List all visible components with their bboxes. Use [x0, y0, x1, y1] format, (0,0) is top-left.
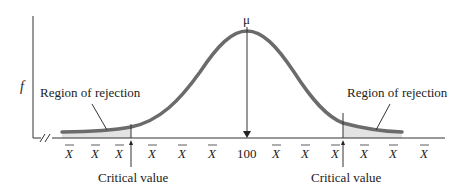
- x-tick: X: [300, 145, 310, 161]
- x-tick: X: [114, 145, 124, 161]
- left-region-label: Region of rejection: [40, 85, 141, 100]
- x-tick: X: [388, 145, 398, 161]
- svg-text:X: X: [300, 146, 310, 161]
- left-region-pointer: [92, 104, 107, 130]
- y-axis-label: f: [20, 79, 26, 94]
- x-tick: X: [64, 145, 74, 161]
- mean-arrow-icon: [243, 131, 251, 138]
- svg-text:X: X: [388, 146, 398, 161]
- svg-text:X: X: [207, 146, 217, 161]
- right-region-pointer: [376, 104, 390, 130]
- svg-text:X: X: [90, 146, 100, 161]
- x-tick: X: [419, 145, 429, 161]
- right-critical-arrow-icon: [341, 140, 345, 145]
- right-critical-label: Critical value: [311, 170, 382, 185]
- x-tick: X: [177, 145, 187, 161]
- svg-text:X: X: [64, 146, 74, 161]
- x-tick: X: [330, 145, 340, 161]
- x-tick: X: [90, 145, 100, 161]
- x-tick: X: [147, 145, 157, 161]
- left-critical-label: Critical value: [98, 170, 169, 185]
- svg-text:X: X: [147, 146, 157, 161]
- svg-text:X: X: [177, 146, 187, 161]
- svg-text:X: X: [359, 146, 369, 161]
- svg-text:X: X: [271, 146, 281, 161]
- mean-label: μ: [243, 12, 250, 27]
- normal-distribution-diagram: f μ Region of rejection Region of reject…: [0, 0, 462, 196]
- svg-text:X: X: [114, 146, 124, 161]
- right-region-label: Region of rejection: [347, 85, 448, 100]
- x-tick: X: [207, 145, 217, 161]
- left-critical-arrow-icon: [129, 140, 133, 145]
- x-tick: X: [271, 145, 281, 161]
- svg-text:X: X: [330, 146, 340, 161]
- bell-curve: [62, 31, 402, 132]
- x-tick: X: [359, 145, 369, 161]
- axis-break-icon: [40, 133, 52, 143]
- svg-text:X: X: [419, 146, 429, 161]
- x-tick-labels: X X X X X X 100 X X X X X X: [64, 145, 429, 161]
- center-value-label: 100: [237, 146, 257, 161]
